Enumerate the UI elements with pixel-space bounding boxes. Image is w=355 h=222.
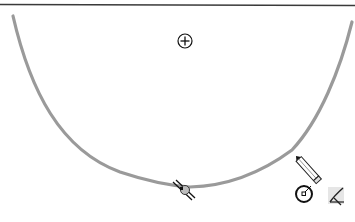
sketch-canvas[interactable] [0,0,355,222]
tangent-arc-icon [328,187,344,205]
coincident-relation-icon[interactable] [173,180,195,200]
sketch-graphics [0,0,355,222]
arc-center-point-icon[interactable] [178,34,192,48]
canvas-top-border [0,5,355,6]
pencil-icon [293,154,321,184]
centerpoint-arc-icon [296,186,312,202]
